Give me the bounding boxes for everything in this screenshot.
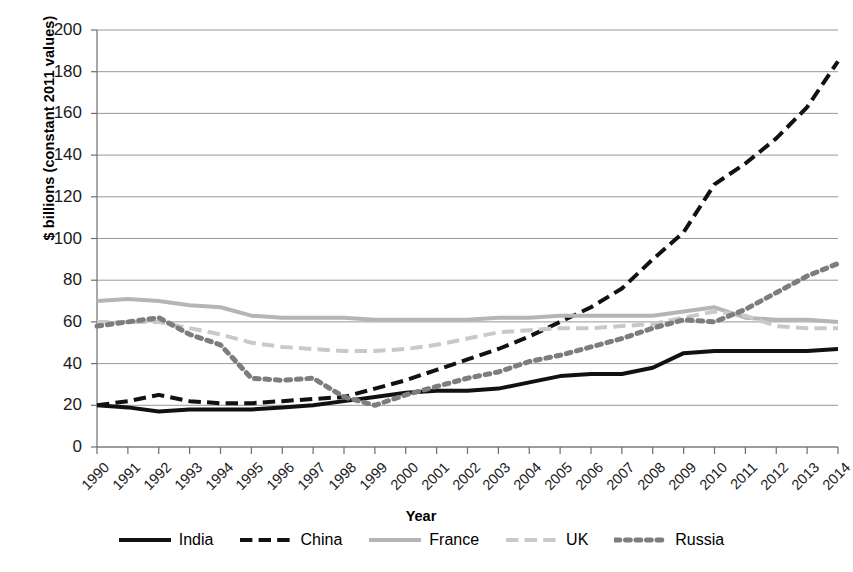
chart-legend: IndiaChinaFranceUKRussia xyxy=(0,532,842,548)
legend-item-france[interactable]: France xyxy=(368,532,479,548)
legend-label: UK xyxy=(566,532,588,548)
y-tick-label: 160 xyxy=(36,104,82,121)
y-tick-label: 100 xyxy=(36,230,82,247)
legend-swatch-india xyxy=(118,533,172,547)
y-tick-label: 20 xyxy=(36,396,82,413)
y-tick-label: 40 xyxy=(36,355,82,372)
legend-swatch-russia xyxy=(614,533,668,547)
legend-label: France xyxy=(429,532,479,548)
legend-swatch-china xyxy=(239,533,293,547)
legend-item-china[interactable]: China xyxy=(239,532,342,548)
y-tick-label: 120 xyxy=(36,188,82,205)
legend-label: Russia xyxy=(675,532,724,548)
legend-item-russia[interactable]: Russia xyxy=(614,532,724,548)
x-axis-title: Year xyxy=(0,508,842,524)
gridlines xyxy=(97,30,838,447)
legend-label: China xyxy=(300,532,342,548)
series-line-russia xyxy=(97,264,838,406)
series-line-france xyxy=(97,299,838,322)
series-line-china xyxy=(97,61,838,405)
legend-swatch-uk xyxy=(505,533,559,547)
x-axis-tick-labels: 1990199119921993199419951996199719981999… xyxy=(0,0,842,80)
legend-item-uk[interactable]: UK xyxy=(505,532,588,548)
y-tick-label: 140 xyxy=(36,146,82,163)
legend-item-india[interactable]: India xyxy=(118,532,214,548)
legend-swatch-france xyxy=(368,533,422,547)
legend-label: India xyxy=(179,532,214,548)
y-tick-label: 80 xyxy=(36,271,82,288)
y-tick-label: 60 xyxy=(36,313,82,330)
y-tick-label: 0 xyxy=(36,438,82,455)
